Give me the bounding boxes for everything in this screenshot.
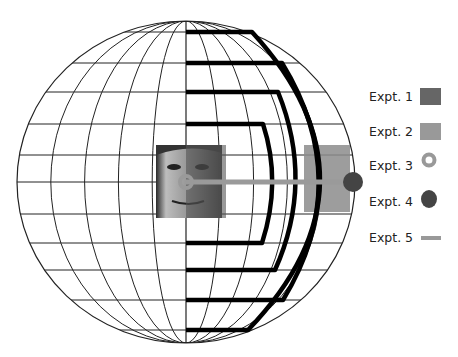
legend-bar-icon bbox=[421, 236, 441, 240]
legend-item-expt1: Expt. 1 bbox=[369, 88, 441, 105]
expt4-circle bbox=[343, 172, 363, 192]
legend-item-expt2: Expt. 2 bbox=[369, 123, 441, 140]
legend-label-expt4: Expt. 4 bbox=[369, 194, 413, 209]
legend-label-expt1: Expt. 1 bbox=[369, 89, 413, 104]
legend-item-expt4: Expt. 4 bbox=[369, 190, 437, 209]
legend-dot-icon bbox=[421, 190, 437, 208]
legend-label-expt2: Expt. 2 bbox=[369, 124, 413, 139]
expt4-dot bbox=[343, 172, 363, 192]
legend: Expt. 1 Expt. 2 Expt. 3 Expt. 4 Expt. 5 bbox=[369, 88, 441, 245]
globe-diagram: Expt. 1 Expt. 2 Expt. 3 Expt. 4 Expt. 5 bbox=[0, 0, 458, 357]
legend-item-expt5: Expt. 5 bbox=[369, 230, 441, 245]
legend-item-expt3: Expt. 3 bbox=[369, 155, 435, 174]
legend-label-expt5: Expt. 5 bbox=[369, 230, 413, 245]
expt2-rect bbox=[304, 145, 350, 212]
legend-label-expt3: Expt. 3 bbox=[369, 158, 413, 173]
legend-ring-icon bbox=[424, 155, 435, 166]
face-eye-left bbox=[167, 164, 181, 170]
expt2-box bbox=[304, 145, 350, 212]
legend-swatch-rect-dark bbox=[420, 88, 441, 105]
legend-swatch-rect-light bbox=[420, 123, 441, 140]
